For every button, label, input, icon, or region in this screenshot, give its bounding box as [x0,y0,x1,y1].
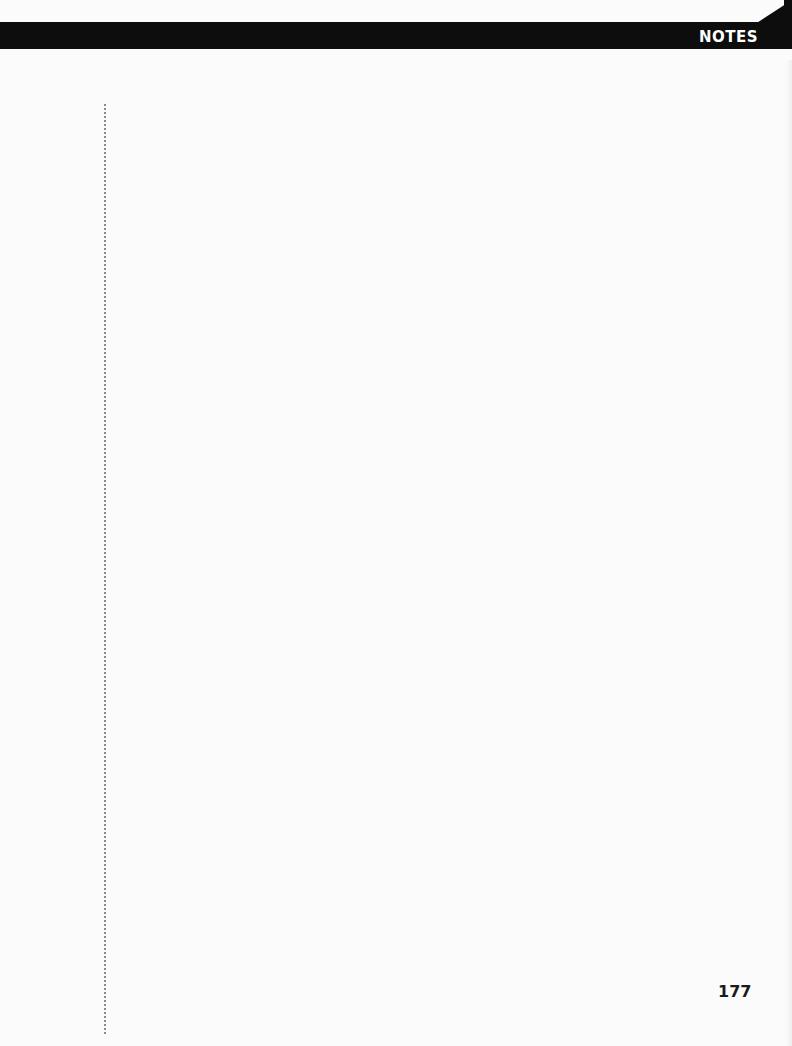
margin-dotted-rule [104,104,106,1034]
section-header-bar [0,22,792,49]
corner-tab-fill [784,0,792,49]
page-number: 177 [718,982,751,1002]
page-edge-shadow [786,60,792,1046]
section-title: NOTES [699,28,758,46]
notes-writing-area [120,60,760,960]
